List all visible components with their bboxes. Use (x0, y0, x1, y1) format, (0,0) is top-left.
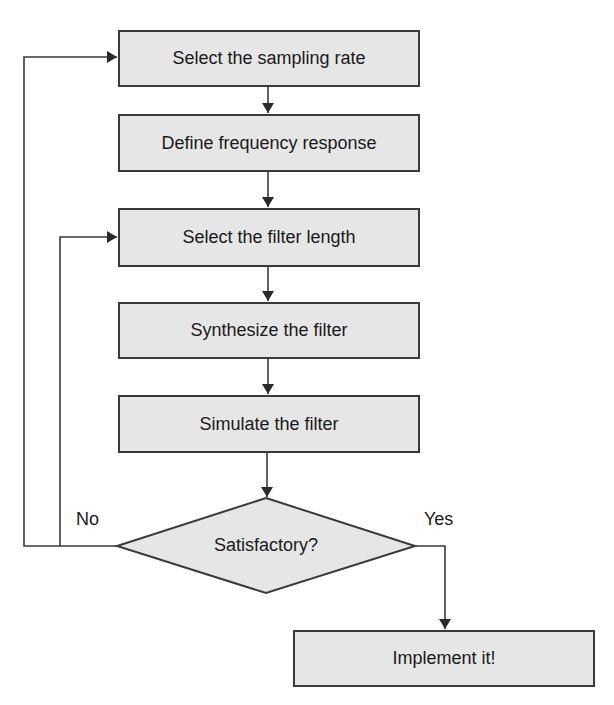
arrow-no-outer (24, 57, 117, 546)
edge-label-yes: Yes (424, 509, 453, 530)
node-label: Select the sampling rate (172, 48, 365, 69)
flowchart: Select the sampling rate Define frequenc… (0, 0, 614, 705)
node-label: Select the filter length (182, 227, 355, 248)
arrow-no-inner (60, 237, 117, 546)
node-select-sampling-rate: Select the sampling rate (118, 30, 420, 87)
node-synthesize-filter: Synthesize the filter (118, 302, 420, 359)
node-define-frequency-response: Define frequency response (118, 114, 420, 172)
node-label: Simulate the filter (199, 414, 338, 435)
edge-label-no: No (76, 509, 99, 530)
arrow-yes (415, 546, 445, 629)
node-select-filter-length: Select the filter length (118, 208, 420, 267)
node-label: Define frequency response (161, 133, 376, 154)
decision-label: Satisfactory? (166, 535, 366, 556)
node-label: Implement it! (392, 648, 495, 669)
node-label: Synthesize the filter (190, 320, 347, 341)
node-simulate-filter: Simulate the filter (118, 395, 420, 453)
node-implement: Implement it! (293, 630, 595, 687)
